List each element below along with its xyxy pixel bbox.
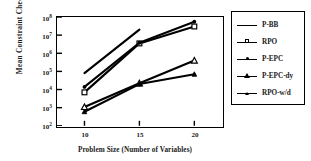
x-tick-label: 10: [74, 131, 96, 139]
y-tick-label: 102: [42, 121, 52, 131]
y-tick-label: 106: [42, 49, 52, 59]
legend-swatch-icon: [236, 71, 258, 82]
y-tick-label: 107: [42, 31, 52, 41]
legend-swatch-icon: [236, 37, 258, 48]
y-tick-label: 108: [42, 13, 52, 23]
legend-item-label: P-EPC: [258, 55, 283, 63]
y-tick-label: 104: [42, 85, 52, 95]
legend-item-label: P-EPC-dy: [258, 72, 293, 80]
legend-swatch-icon: [236, 54, 258, 65]
legend-item-p-epc-dy[interactable]: P-EPC-dy: [236, 68, 304, 84]
legend-item-label: RPO-w/d: [258, 89, 291, 97]
series-canvas: [57, 17, 222, 126]
legend-swatch-icon: [236, 20, 258, 31]
y-tick-label: 103: [42, 103, 52, 113]
x-tick-label: 20: [184, 131, 206, 139]
chart-figure: Mean Constraint Checks 10210310410510610…: [0, 0, 311, 161]
x-axis-title: Problem Size (Number of Variables): [44, 146, 226, 154]
legend-item-rpo[interactable]: RPO: [236, 34, 304, 50]
legend-item-p-bb[interactable]: P-BB: [236, 17, 304, 33]
y-axis-title: Mean Constraint Checks: [16, 0, 24, 78]
plot-area: [56, 16, 224, 128]
legend-item-label: RPO: [258, 38, 277, 46]
chart-legend: P-BBRPOP-EPCP-EPC-dyRPO-w/d: [231, 11, 305, 105]
y-tick-label: 105: [42, 67, 52, 77]
legend-item-p-epc[interactable]: P-EPC: [236, 51, 304, 67]
x-tick-label: 15: [129, 131, 151, 139]
legend-item-label: P-BB: [258, 21, 278, 29]
legend-item-rpo-w-d[interactable]: RPO-w/d: [236, 85, 304, 101]
legend-swatch-icon: [236, 88, 258, 99]
